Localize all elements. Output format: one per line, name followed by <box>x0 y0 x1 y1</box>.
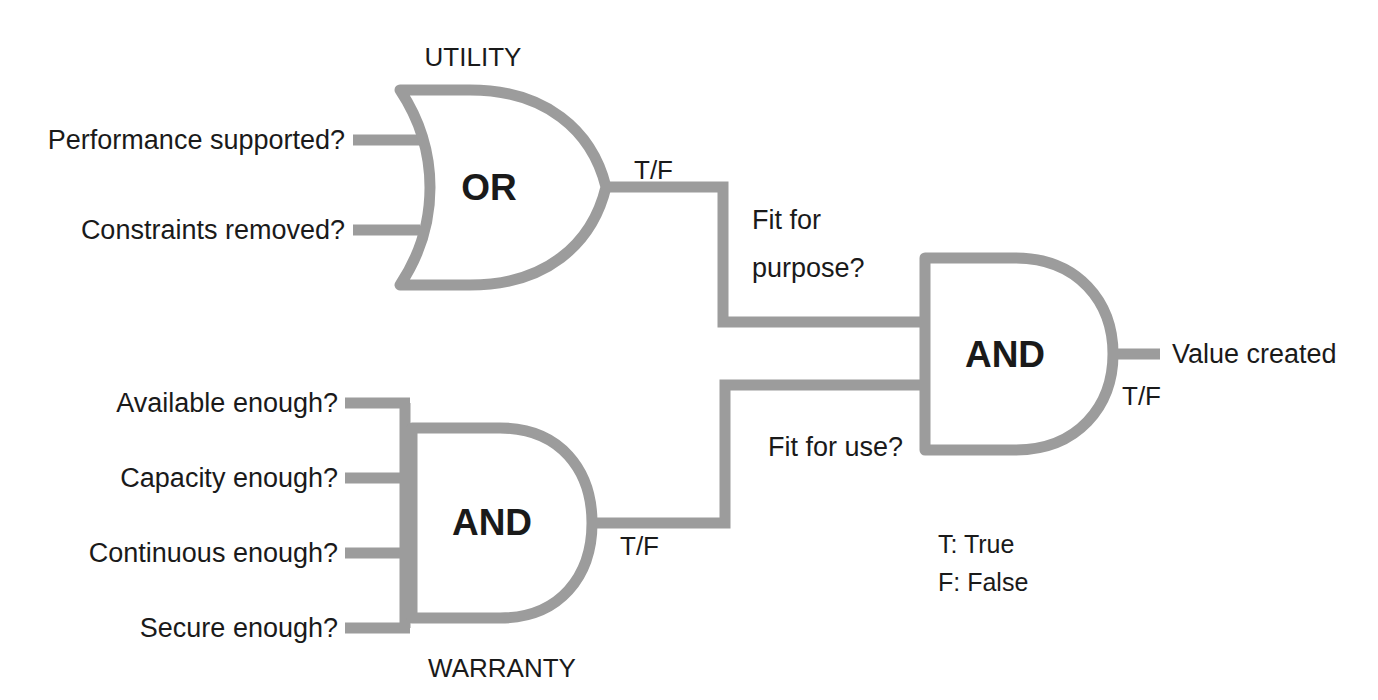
warranty-group-label: WARRANTY <box>428 653 576 683</box>
or-gate-label: OR <box>461 167 517 208</box>
input-label-performance-supported: Performance supported? <box>48 125 345 155</box>
final-and-gate-label: AND <box>965 334 1045 375</box>
warranty-output-tf-label: T/F <box>620 531 659 561</box>
logic-gate-diagram: UTILITY OR Performance supported? Constr… <box>0 0 1378 700</box>
warranty-and-gate-label: AND <box>452 502 532 543</box>
final-output-tf-label: T/F <box>1122 381 1161 411</box>
utility-group-label: UTILITY <box>425 42 522 72</box>
diagram-canvas: UTILITY OR Performance supported? Constr… <box>0 0 1378 700</box>
legend-item-false: F: False <box>938 568 1028 596</box>
intermediate-label-fit-for-use: Fit for use? <box>768 432 903 462</box>
input-label-secure-enough: Secure enough? <box>140 613 338 643</box>
final-output-label-value-created: Value created <box>1172 339 1337 369</box>
input-label-continuous-enough: Continuous enough? <box>89 538 338 568</box>
input-label-available-enough: Available enough? <box>116 388 338 418</box>
input-label-constraints-removed: Constraints removed? <box>81 215 345 245</box>
intermediate-label-fit-for-purpose-line1: Fit for <box>752 205 821 235</box>
legend-item-true: T: True <box>938 530 1014 558</box>
intermediate-label-fit-for-purpose-line2: purpose? <box>752 253 865 283</box>
input-label-capacity-enough: Capacity enough? <box>120 463 338 493</box>
or-output-tf-label: T/F <box>634 155 673 185</box>
